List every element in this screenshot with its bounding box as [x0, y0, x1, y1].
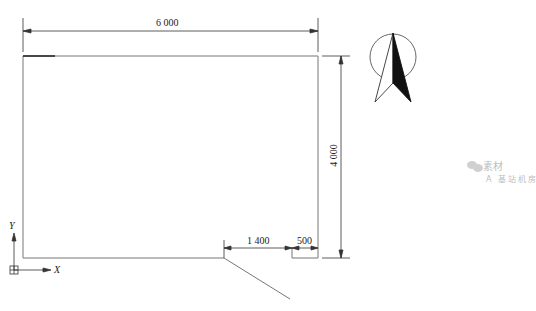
height-dimension-label: 4 000 [328, 144, 339, 167]
floor-plan-drawing [0, 0, 536, 311]
door-width-label: 500 [297, 235, 312, 246]
watermark-caption: A 基站机房 [486, 173, 536, 184]
x-axis-label: X [54, 264, 60, 275]
watermark-logo-icon [467, 161, 483, 172]
room-outline [23, 56, 318, 258]
coordinate-axes [10, 233, 51, 274]
watermark-brand: 素材 [483, 158, 503, 173]
y-axis-label: Y [9, 220, 15, 231]
width-dimension-label: 6 000 [156, 17, 179, 28]
north-arrow-icon [370, 33, 416, 102]
door-offset-label: 1 400 [247, 235, 270, 246]
door-swing-line [224, 258, 290, 299]
